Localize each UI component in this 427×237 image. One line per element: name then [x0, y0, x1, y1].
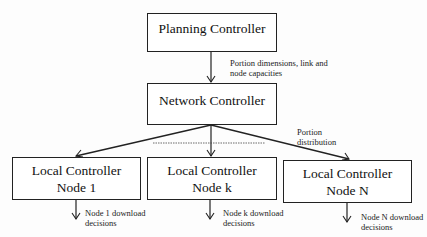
planning-controller-box: Planning Controller: [147, 13, 277, 52]
nodek-title: Local Controller: [167, 162, 257, 179]
nodeN-subtitle: Node N: [326, 182, 368, 199]
nodeN-output-label: Node N download decisions: [361, 212, 423, 232]
network-controller-box: Network Controller: [147, 83, 277, 125]
nodek-subtitle: Node k: [192, 179, 231, 196]
local-controller-nodeN-box: Local Controller Node N: [283, 160, 412, 203]
portion-distribution-label: Portion distribution: [297, 127, 336, 147]
local-controller-node1-box: Local Controller Node 1: [12, 157, 141, 200]
nodek-output-label: Node k download decisions: [223, 208, 283, 228]
network-controller-label: Network Controller: [159, 92, 265, 109]
nodeN-title: Local Controller: [303, 165, 393, 182]
local-controller-nodek-box: Local Controller Node k: [147, 157, 277, 200]
node1-subtitle: Node 1: [57, 179, 96, 196]
arrow-network-to-node1: [76, 125, 211, 156]
planning-to-network-label: Portion dimensions, link and node capaci…: [230, 58, 328, 78]
node1-title: Local Controller: [32, 162, 122, 179]
node1-output-label: Node 1 download decisions: [85, 208, 145, 228]
planning-controller-label: Planning Controller: [159, 20, 266, 37]
